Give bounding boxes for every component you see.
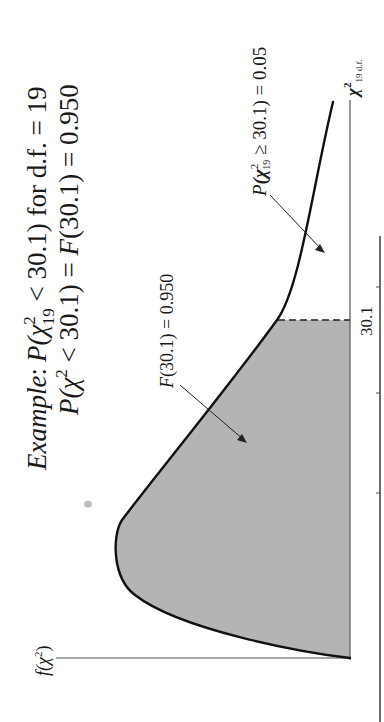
tail-area-arrow <box>270 195 322 250</box>
critical-value-label: 30.1 <box>357 306 376 336</box>
title-line-2: P(χ2 < 30.1) = F(30.1) = 0.950 <box>52 84 84 416</box>
shaded-area-label: F(30.1) = 0.950 <box>157 274 178 389</box>
scan-speck <box>84 501 92 508</box>
x-axis-label: χ219 d.f. <box>341 59 364 98</box>
title-line-1: Example:P(χ219 < 30.1) for d.f. = 19 <box>20 86 58 471</box>
shaded-area-region <box>116 320 350 658</box>
tail-area-label: P(χ219 ≥ 30.1) = 0.05 <box>248 47 272 197</box>
y-axis-label: f(χ2) <box>32 646 54 676</box>
diagram-canvas: Example:P(χ219 < 30.1) for d.f. = 19 P(χ… <box>0 0 384 722</box>
arrowhead-icon <box>315 244 325 253</box>
chi-square-diagram: Example:P(χ219 < 30.1) for d.f. = 19 P(χ… <box>0 0 384 722</box>
